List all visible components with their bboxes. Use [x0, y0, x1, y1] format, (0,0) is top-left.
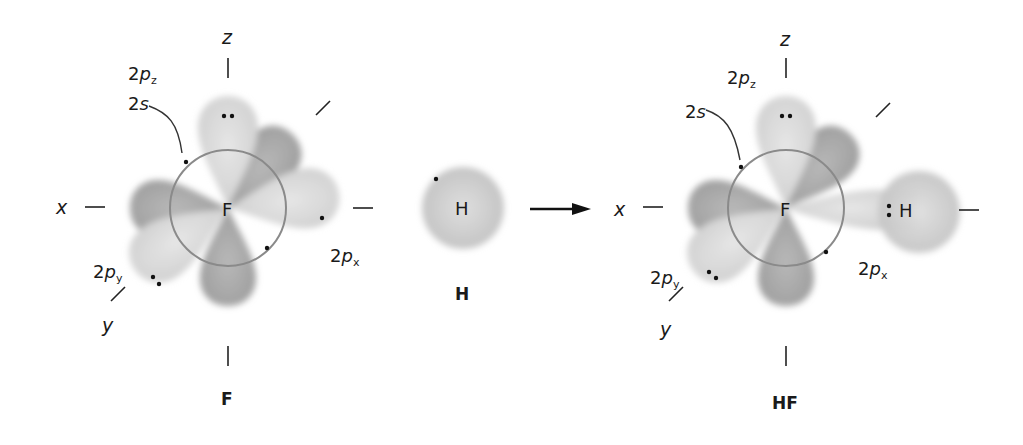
electron — [222, 114, 226, 118]
hf-2py-label: 2py — [650, 267, 680, 291]
electron — [157, 282, 161, 286]
2s-label: 2s — [128, 93, 149, 114]
neg-y-axis-tick — [316, 101, 330, 115]
2s-leader-line — [706, 110, 740, 160]
h-1s-orbital — [878, 171, 960, 253]
hf-2px-label: 2px — [858, 258, 888, 282]
electron — [265, 246, 269, 250]
electron — [739, 165, 743, 169]
fluorine-symbol: F — [222, 199, 232, 220]
bonding-electron — [887, 213, 891, 217]
electron — [788, 114, 792, 118]
2px-label: 2px — [330, 245, 360, 269]
hydrogen-symbol: H — [455, 198, 469, 219]
orbital-diagram: F z x y 2pz 2s 2px 2py F H H — [0, 0, 1023, 445]
x-axis-label: x — [55, 196, 68, 218]
hf-z-axis-label: z — [779, 28, 791, 50]
electron — [230, 114, 234, 118]
electron — [780, 114, 784, 118]
2py-label: 2py — [93, 261, 123, 285]
fluorine-caption: F — [221, 389, 233, 409]
electron — [714, 276, 718, 280]
2pz-label: 2pz — [128, 63, 157, 87]
z-axis-label: z — [221, 26, 233, 48]
electron — [434, 177, 438, 181]
electron — [151, 275, 155, 279]
hf-hydrogen-symbol: H — [899, 200, 913, 221]
y-axis-label: y — [101, 314, 114, 336]
hf-x-axis-label: x — [613, 198, 626, 220]
2s-leader-line — [149, 106, 182, 153]
hf-caption: HF — [772, 393, 798, 413]
neg-y-axis-tick — [876, 103, 890, 117]
reaction-arrow-icon — [530, 203, 591, 215]
bonding-electron — [887, 204, 891, 208]
hf-fluorine-symbol: F — [780, 199, 790, 220]
hydrogen-caption: H — [455, 284, 469, 304]
hf-2pz-label: 2pz — [727, 67, 756, 91]
hf-2s-label: 2s — [685, 101, 706, 122]
hydrogen-atom: H — [422, 167, 504, 249]
electron — [707, 270, 711, 274]
electron — [320, 216, 324, 220]
y-axis-tick — [111, 287, 125, 301]
hf-y-axis-label: y — [659, 318, 672, 340]
electron — [184, 160, 188, 164]
electron — [824, 250, 828, 254]
